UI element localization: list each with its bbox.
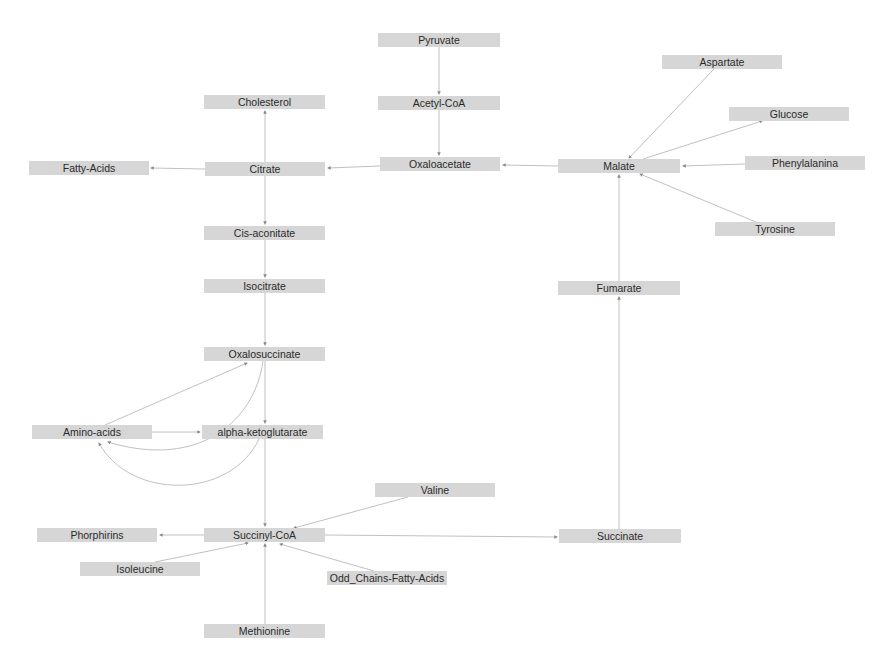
node-odd-chains-fatty-acids[interactable]: Odd_Chains-Fatty-Acids [327, 571, 447, 585]
edge-valine-succinylcoa [294, 497, 408, 528]
node-oxaloacetate[interactable]: Oxaloacetate [380, 157, 500, 171]
node-tyrosine[interactable]: Tyrosine [715, 222, 835, 236]
edge-malate-oxaloacetate [503, 165, 558, 166]
edge-succinylcoa-succinate [325, 535, 557, 537]
node-cholesterol[interactable]: Cholesterol [204, 95, 325, 109]
node-phenylalanina[interactable]: Phenylalanina [745, 156, 865, 170]
node-citrate[interactable]: Citrate [205, 162, 325, 176]
node-aspartate[interactable]: Aspartate [662, 55, 782, 69]
node-fatty-acids[interactable]: Fatty-Acids [29, 161, 149, 175]
edge-phenylalanina-malate [683, 164, 745, 166]
pathway-diagram: Pyruvate Acetyl-CoA Oxaloacetate Cholest… [0, 0, 886, 666]
edge-isoleucine-succinylcoa [155, 543, 248, 562]
edge-aminoacids-oxalosuccinate [105, 363, 247, 425]
node-acetyl-coa[interactable]: Acetyl-CoA [378, 96, 500, 110]
edge-tyrosine-malate [640, 174, 756, 222]
node-alpha-ketoglutarate[interactable]: alpha-ketoglutarate [202, 425, 323, 439]
edge-aspartate-malate [629, 69, 714, 158]
node-pyruvate[interactable]: Pyruvate [378, 33, 500, 47]
edge-oddchains-succinylcoa [280, 544, 374, 571]
node-isoleucine[interactable]: Isoleucine [80, 562, 200, 576]
edge-citrate-fattyacids [151, 168, 205, 169]
node-valine[interactable]: Valine [375, 483, 495, 497]
node-phorphirins[interactable]: Phorphirins [37, 528, 157, 542]
node-amino-acids[interactable]: Amino-acids [32, 425, 152, 439]
node-glucose[interactable]: Glucose [729, 107, 849, 121]
node-succinate[interactable]: Succinate [559, 529, 681, 543]
edge-malate-glucose [643, 121, 762, 159]
node-isocitrate[interactable]: Isocitrate [204, 279, 325, 293]
node-oxalosuccinate[interactable]: Oxalosuccinate [204, 347, 325, 361]
node-malate[interactable]: Malate [558, 159, 680, 173]
node-succinyl-coa[interactable]: Succinyl-CoA [204, 528, 325, 542]
edge-oxaloacetate-citrate [328, 166, 380, 168]
node-cis-aconitate[interactable]: Cis-aconitate [204, 226, 325, 240]
node-fumarate[interactable]: Fumarate [558, 281, 680, 295]
node-methionine[interactable]: Methionine [204, 624, 325, 638]
